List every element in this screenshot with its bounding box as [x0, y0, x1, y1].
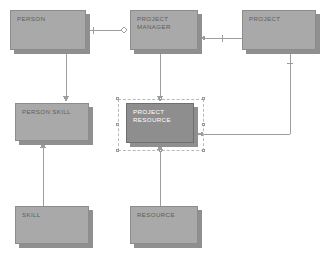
entity-project-manager[interactable]: PROJECT MANAGER: [130, 10, 198, 50]
connector-person-to-project-manager[interactable]: [86, 27, 127, 34]
entity-label-resource: RESOURCE: [137, 211, 197, 219]
entity-resource[interactable]: RESOURCE: [130, 206, 198, 244]
selection-handle-sw[interactable]: [116, 149, 119, 152]
connector-resource-to-project-resource[interactable]: [157, 144, 163, 206]
entity-label-project-manager: PROJECT MANAGER: [137, 15, 197, 31]
entity-project[interactable]: PROJECT: [242, 10, 316, 50]
entity-skill[interactable]: SKILL: [15, 206, 89, 244]
selection-handle-nw[interactable]: [116, 97, 119, 100]
selection-handle-n[interactable]: [159, 97, 162, 100]
connector-project-to-project-resource[interactable]: [197, 50, 293, 137]
connector-project-manager-to-project-resource[interactable]: [157, 50, 163, 102]
selection-handle-w[interactable]: [116, 123, 119, 126]
entity-label-person-skill: PERSON SKILL: [22, 108, 88, 116]
entity-label-person: PERSON: [17, 15, 85, 23]
connector-project-to-project-manager[interactable]: [199, 35, 242, 42]
entity-person[interactable]: PERSON: [10, 10, 86, 50]
entity-person-skill[interactable]: PERSON SKILL: [15, 103, 89, 141]
entity-project-resource[interactable]: PROJECT RESOURCE: [126, 103, 194, 143]
selection-handle-se[interactable]: [202, 149, 205, 152]
entity-label-project-resource: PROJECT RESOURCE: [133, 108, 193, 124]
connector-person-to-person-skill[interactable]: [63, 50, 69, 102]
entity-label-skill: SKILL: [22, 211, 88, 219]
selection-handle-ne[interactable]: [202, 97, 205, 100]
selection-handle-e[interactable]: [202, 123, 205, 126]
entity-label-project: PROJECT: [249, 15, 315, 23]
er-diagram-canvas: PERSON PROJECT MANAGER PROJECT PERSON SK…: [0, 0, 332, 256]
selection-handle-s[interactable]: [159, 149, 162, 152]
connector-skill-to-person-skill[interactable]: [40, 142, 46, 206]
